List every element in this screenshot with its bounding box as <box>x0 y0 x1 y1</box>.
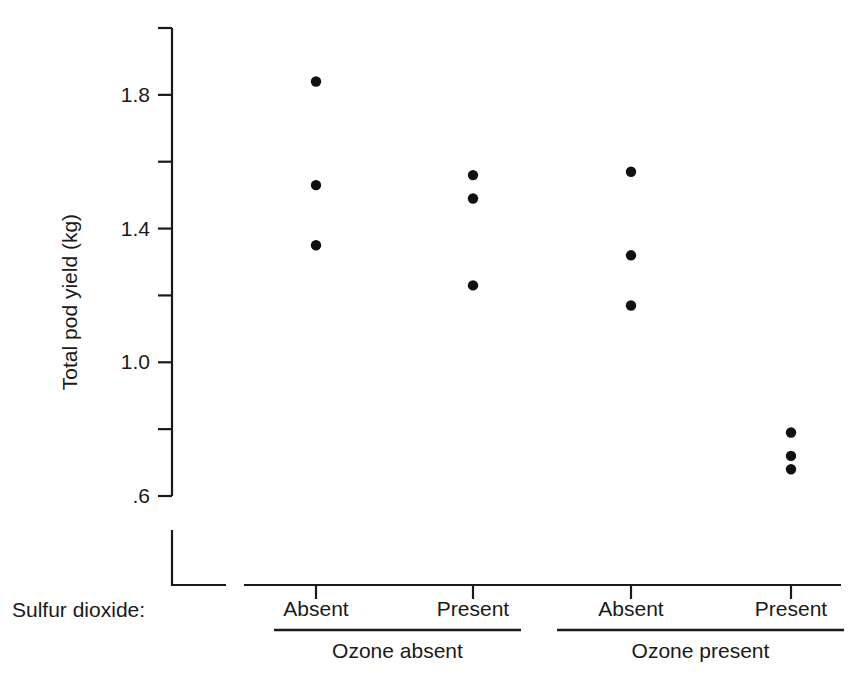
y-tick-label: .6 <box>30 485 150 506</box>
data-point <box>626 250 636 260</box>
panel-label: Ozone present <box>541 640 861 661</box>
panel-label: Ozone absent <box>238 640 558 661</box>
data-point <box>626 300 636 310</box>
data-point <box>311 180 321 190</box>
y-tick-label: 1.4 <box>30 218 150 239</box>
data-point <box>468 280 478 290</box>
x-group-label: Present <box>691 598 867 619</box>
y-tick-label: 1.0 <box>30 351 150 372</box>
data-point <box>786 427 796 437</box>
scatter-plot-figure: 1.81.41.0.6 Total pod yield (kg) Sulfur … <box>0 0 867 700</box>
data-point <box>786 464 796 474</box>
data-point <box>311 240 321 250</box>
data-point <box>626 167 636 177</box>
data-point <box>311 76 321 86</box>
y-axis <box>158 28 172 496</box>
x-factor-label: Sulfur dioxide: <box>12 598 145 622</box>
data-point <box>468 193 478 203</box>
y-tick-label: 1.8 <box>30 84 150 105</box>
y-axis-title: Total pod yield (kg) <box>58 172 82 432</box>
data-point <box>468 170 478 180</box>
data-points-layer <box>311 76 796 474</box>
data-point <box>786 451 796 461</box>
axis-break-corner <box>172 530 226 585</box>
